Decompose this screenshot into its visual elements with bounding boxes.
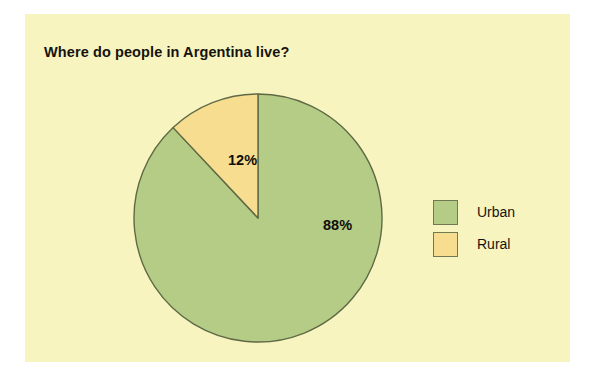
legend-label-rural: Rural [477,236,510,252]
legend-swatch-urban [433,200,458,225]
chart-card: Where do people in Argentina live? 12% 8… [25,14,570,362]
legend-item-urban[interactable]: Urban [433,196,563,228]
legend-swatch-rural [433,232,458,257]
chart-legend: Urban Rural [433,196,563,260]
pie-chart: 12% 88% [133,93,383,343]
pie-label-rural: 12% [228,152,257,168]
legend-label-urban: Urban [477,204,515,220]
chart-title: Where do people in Argentina live? [44,44,289,60]
pie-label-urban: 88% [323,217,352,233]
legend-item-rural[interactable]: Rural [433,228,563,260]
